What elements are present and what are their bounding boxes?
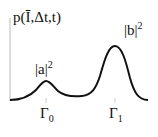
peak-a-base: |a| <box>35 61 48 77</box>
x-tick-label-gamma0: Γ0 <box>40 106 54 121</box>
gamma1-base: Γ <box>109 105 118 121</box>
peak-a-label: |a|2 <box>35 62 53 77</box>
peak-b-label: |b|2 <box>124 23 143 38</box>
y-axis-label: p(Ī,Δt,t) <box>13 10 61 25</box>
peak-b-base: |b| <box>124 22 138 38</box>
gamma1-subscript: 1 <box>118 113 123 124</box>
peak-a-exponent: 2 <box>48 59 53 70</box>
x-tick-label-gamma1: Γ1 <box>109 106 123 121</box>
distribution-curve <box>10 46 148 100</box>
gamma0-subscript: 0 <box>49 113 54 124</box>
peak-b-exponent: 2 <box>138 20 143 31</box>
gamma0-base: Γ <box>40 105 49 121</box>
